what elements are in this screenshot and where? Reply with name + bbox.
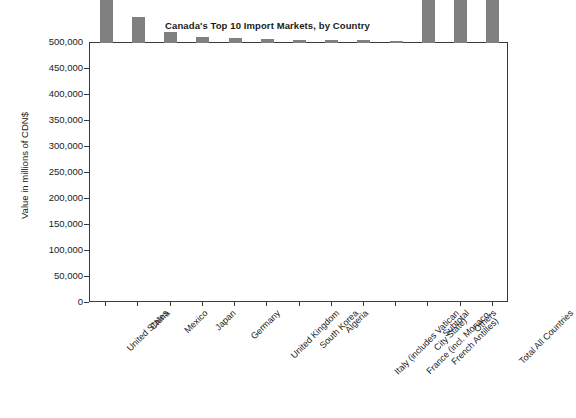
x-tick-mark <box>137 302 138 306</box>
x-tick-label: Germany <box>249 308 283 342</box>
y-tick-label: 100,000 <box>49 244 83 255</box>
bar <box>261 39 274 43</box>
bar <box>293 40 306 43</box>
bar <box>164 32 177 43</box>
y-tick-label: 400,000 <box>49 88 83 99</box>
x-tick-label: Total All Countries <box>517 308 576 367</box>
x-tick-mark <box>266 302 267 306</box>
bar <box>454 0 467 43</box>
x-tick-mark <box>299 302 300 306</box>
x-tick-mark <box>363 302 364 306</box>
x-tick-mark <box>331 302 332 306</box>
bar <box>422 0 435 43</box>
plot-area <box>89 42 508 302</box>
bar <box>132 17 145 43</box>
x-tick-mark <box>105 302 106 306</box>
y-tick-label: 300,000 <box>49 140 83 151</box>
y-tick-label: 500,000 <box>49 36 83 47</box>
x-tick-mark <box>202 302 203 306</box>
y-axis-title: Value in millions of CDN$ <box>19 66 30 266</box>
x-tick-mark <box>492 302 493 306</box>
bar <box>325 40 338 43</box>
bar <box>486 0 499 43</box>
y-tick-label: 0 <box>78 296 83 307</box>
x-tick-label: Japan <box>213 308 238 333</box>
y-tick-label: 200,000 <box>49 192 83 203</box>
bar <box>196 37 209 43</box>
x-tick-mark <box>170 302 171 306</box>
x-tick-mark <box>460 302 461 306</box>
y-tick-label: 250,000 <box>49 166 83 177</box>
x-tick-mark <box>427 302 428 306</box>
bar <box>229 38 242 43</box>
bar <box>100 0 113 43</box>
x-tick-mark <box>234 302 235 306</box>
x-tick-label: Mexico <box>182 308 210 336</box>
y-tick-label: 50,000 <box>54 270 83 281</box>
x-tick-label: China <box>148 308 172 332</box>
x-tick-mark <box>395 302 396 306</box>
bar <box>357 40 370 43</box>
y-tick-label: 350,000 <box>49 114 83 125</box>
y-tick-label: 150,000 <box>49 218 83 229</box>
y-tick-mark <box>84 302 89 303</box>
bar <box>390 41 403 43</box>
y-tick-label: 450,000 <box>49 62 83 73</box>
